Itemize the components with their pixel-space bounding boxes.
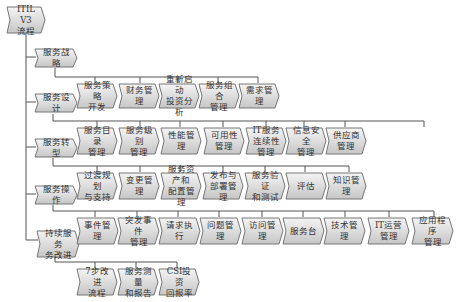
process-node: IT服务 连续性管理 bbox=[245, 127, 287, 155]
process-label: 发布与 部署管理 bbox=[208, 170, 238, 203]
process-label: 服务目录 管理 bbox=[82, 125, 112, 158]
process-label: IT服务 连续性管理 bbox=[251, 125, 281, 158]
process-label: 重新启动 投资分析 bbox=[164, 74, 194, 118]
process-node: 请求执行 bbox=[158, 217, 201, 245]
process-label: 需求管理 bbox=[244, 85, 274, 107]
stage-operation: 服务操作 bbox=[34, 185, 78, 205]
process-node: 事件管理 bbox=[76, 217, 119, 245]
process-label: 技术管理 bbox=[329, 220, 360, 242]
process-node: 服务目录 管理 bbox=[76, 127, 118, 155]
process-label: 服务资产和 配置管理 bbox=[166, 164, 196, 208]
stage-strategy: 服务战略 bbox=[34, 48, 78, 68]
process-node: 知识管理 bbox=[325, 172, 367, 200]
process-node: 信息安全 管理 bbox=[285, 127, 327, 155]
process-label: 服务级别 管理 bbox=[124, 125, 154, 158]
process-node: IT运营 管理 bbox=[367, 217, 410, 245]
process-node: 过渡规划 与支持 bbox=[76, 172, 118, 200]
process-node: 服务测量 和报告 bbox=[117, 268, 159, 296]
process-label: 性能管理 bbox=[166, 130, 196, 152]
process-node: 服务资产和 配置管理 bbox=[160, 172, 202, 200]
stage-csi: 持续服务 务改进 bbox=[36, 230, 80, 258]
process-node: 突发事件 管理 bbox=[117, 217, 160, 245]
process-label: 财务管理 bbox=[124, 85, 154, 107]
process-label: CSI投资 回报率 bbox=[164, 266, 194, 299]
process-node: 发布与 部署管理 bbox=[202, 172, 244, 200]
process-node: 服务验证 和测试 bbox=[244, 172, 286, 200]
process-label: 访问管理 bbox=[247, 220, 278, 242]
process-node: 服务台 bbox=[282, 217, 325, 245]
process-label: 知识管理 bbox=[331, 175, 361, 197]
itil-v3-process-diagram: ITIL V3 流程 服务战略 服务设计 服务转型 服务操作 持续服务 务改进 … bbox=[0, 0, 461, 302]
process-node: 应用程序 管理 bbox=[411, 217, 454, 245]
process-label: 供应商 管理 bbox=[333, 130, 360, 152]
process-node: 变更管理 bbox=[118, 172, 160, 200]
process-node: 需求管理 bbox=[238, 83, 280, 109]
stage-label: 服务操作 bbox=[40, 184, 72, 206]
process-label: 问题管理 bbox=[205, 220, 236, 242]
process-label: 变更管理 bbox=[124, 175, 154, 197]
process-label: 服务验证 和测试 bbox=[250, 170, 280, 203]
process-node: 访问管理 bbox=[241, 217, 284, 245]
process-label: 7步改进 流程 bbox=[82, 266, 112, 299]
stage-transition: 服务转型 bbox=[34, 138, 78, 158]
process-label: 服务台 bbox=[290, 226, 317, 237]
process-label: 服务测量 和报告 bbox=[123, 266, 153, 299]
process-label: 服务策略 开发 bbox=[82, 80, 112, 113]
stage-design: 服务设计 bbox=[34, 93, 78, 113]
process-node: 可用性 管理 bbox=[203, 127, 245, 155]
process-node: 评估 bbox=[285, 172, 327, 200]
process-label: 服务组合 管理 bbox=[204, 80, 234, 113]
root-node: ITIL V3 流程 bbox=[6, 6, 46, 34]
process-node: 技术管理 bbox=[323, 217, 366, 245]
process-node: 财务管理 bbox=[118, 83, 160, 109]
process-label: 突发事件 管理 bbox=[123, 215, 154, 248]
process-node: CSI投资 回报率 bbox=[158, 268, 200, 296]
process-label: 应用程序 管理 bbox=[417, 215, 448, 248]
stage-label: 持续服务 务改进 bbox=[42, 228, 74, 261]
stage-label: 服务设计 bbox=[40, 92, 72, 114]
process-label: 可用性 管理 bbox=[211, 130, 238, 152]
process-label: 过渡规划 与支持 bbox=[82, 170, 112, 203]
process-node: 问题管理 bbox=[199, 217, 242, 245]
root-label: ITIL V3 流程 bbox=[12, 4, 40, 37]
stage-label: 服务战略 bbox=[40, 47, 72, 69]
process-node: 服务组合 管理 bbox=[198, 83, 240, 109]
stage-label: 服务转型 bbox=[40, 137, 72, 159]
process-node: 重新启动 投资分析 bbox=[158, 83, 200, 109]
process-node: 服务策略 开发 bbox=[76, 83, 118, 109]
process-node: 服务级别 管理 bbox=[118, 127, 160, 155]
process-node: 7步改进 流程 bbox=[76, 268, 118, 296]
process-label: 请求执行 bbox=[164, 220, 195, 242]
process-node: 供应商 管理 bbox=[325, 127, 367, 155]
process-label: 信息安全 管理 bbox=[291, 125, 321, 158]
process-label: 评估 bbox=[297, 181, 315, 192]
process-node: 性能管理 bbox=[160, 127, 202, 155]
process-label: 事件管理 bbox=[82, 220, 113, 242]
process-label: IT运营 管理 bbox=[375, 220, 402, 242]
